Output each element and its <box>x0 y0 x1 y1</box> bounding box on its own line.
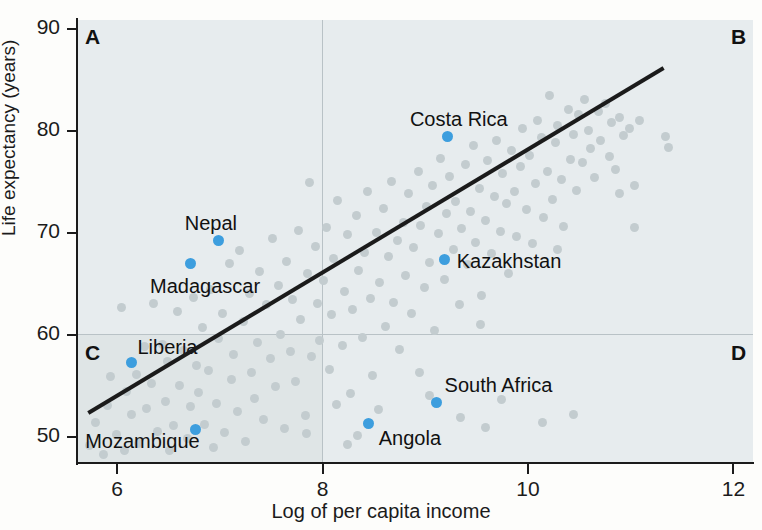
data-point <box>601 99 610 108</box>
data-point <box>533 116 542 125</box>
data-point <box>455 300 464 309</box>
x-axis-label: Log of per capita income <box>0 500 762 523</box>
quadrant-letter-a: A <box>85 26 100 47</box>
data-point <box>566 155 575 164</box>
data-point <box>572 186 581 195</box>
data-point <box>346 389 355 398</box>
life-expectancy-income-scatter-chart: NepalMadagascarLiberiaMozambiqueCosta Ri… <box>0 0 762 530</box>
data-point <box>319 276 328 285</box>
data-point <box>235 246 244 255</box>
data-point <box>492 136 501 145</box>
data-point <box>498 169 507 178</box>
data-point <box>268 234 277 243</box>
data-point <box>569 130 578 139</box>
data-point <box>229 350 238 359</box>
data-point <box>375 278 384 287</box>
data-point <box>227 375 236 384</box>
x-axis-tick: 8 <box>322 464 324 474</box>
data-point <box>200 420 209 429</box>
data-point <box>481 216 490 225</box>
data-point <box>374 405 383 414</box>
data-point <box>311 242 320 251</box>
data-point <box>415 368 424 377</box>
data-point <box>132 370 141 379</box>
highlighted-data-point[interactable] <box>185 258 196 269</box>
x-axis-tick: 6 <box>116 464 118 474</box>
y-axis-tick-label: 80 <box>37 118 60 140</box>
data-point <box>194 388 203 397</box>
quadrant-divider-vertical <box>322 20 323 463</box>
data-point <box>186 402 195 411</box>
highlighted-data-point[interactable] <box>363 418 374 429</box>
quadrant-letter-b: B <box>731 26 746 47</box>
data-point <box>630 223 639 232</box>
data-point <box>543 167 552 176</box>
data-point <box>539 213 548 222</box>
data-point <box>322 223 331 232</box>
x-axis-tick-label: 8 <box>317 477 329 501</box>
y-axis-tick: 50 <box>67 436 76 438</box>
data-point <box>428 181 437 190</box>
x-axis: 681012 <box>76 462 754 464</box>
data-point <box>122 387 131 396</box>
data-point <box>476 320 485 329</box>
data-point <box>611 165 620 174</box>
data-point-label: Liberia <box>137 337 197 358</box>
data-point <box>276 330 285 339</box>
data-point-label: Kazakhstan <box>457 251 562 272</box>
x-axis-tick: 10 <box>527 464 529 474</box>
data-point-label: Angola <box>379 428 441 449</box>
data-point <box>605 152 614 161</box>
y-axis-tick-label: 50 <box>37 424 60 446</box>
data-point <box>528 239 537 248</box>
data-point <box>434 229 443 238</box>
data-point <box>430 326 439 335</box>
data-point <box>497 395 506 404</box>
data-point <box>393 236 402 245</box>
data-point <box>564 105 573 114</box>
data-point <box>343 230 352 239</box>
data-point <box>457 224 466 233</box>
data-point-label: Mozambique <box>85 431 200 452</box>
data-point <box>379 204 388 213</box>
data-point-label: Madagascar <box>150 276 260 297</box>
data-point-label: Costa Rica <box>410 109 508 130</box>
data-point <box>401 271 410 280</box>
data-point <box>414 167 423 176</box>
x-axis-tick-label: 10 <box>516 477 539 501</box>
data-point <box>239 317 248 326</box>
data-point <box>247 368 256 377</box>
plot-area: NepalMadagascarLiberiaMozambiqueCosta Ri… <box>77 20 753 463</box>
data-point <box>456 413 465 422</box>
y-axis-tick: 80 <box>67 130 76 132</box>
data-point <box>387 177 396 186</box>
data-point <box>553 121 562 130</box>
data-point <box>204 366 213 375</box>
data-point <box>490 192 499 201</box>
x-axis-tick-label: 12 <box>722 477 745 501</box>
data-point <box>127 410 136 419</box>
y-axis-tick-label: 60 <box>37 322 60 344</box>
data-point <box>615 189 624 198</box>
data-point <box>315 336 324 345</box>
quadrant-letter-d: D <box>731 342 746 363</box>
data-point <box>305 178 314 187</box>
data-point <box>399 218 408 227</box>
data-point <box>241 437 250 446</box>
data-point <box>661 132 670 141</box>
quadrant-letter-c: C <box>85 342 100 363</box>
data-point <box>496 227 505 236</box>
data-point <box>266 354 275 363</box>
data-point <box>531 179 540 188</box>
data-point <box>192 361 201 370</box>
data-point <box>301 411 310 420</box>
data-point-label: Nepal <box>185 213 237 234</box>
data-point <box>338 341 347 350</box>
y-axis-label: Life expectancy (years) <box>0 40 20 236</box>
data-point <box>584 126 593 135</box>
data-point <box>358 333 367 342</box>
data-point <box>274 281 283 290</box>
quadrant-b-region <box>322 20 753 334</box>
data-point <box>353 431 362 440</box>
y-axis-tick: 90 <box>67 28 76 30</box>
